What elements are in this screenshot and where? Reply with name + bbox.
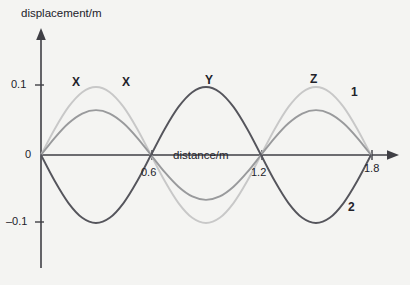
x-tick-label-0.6: 0.6 [141, 167, 156, 178]
standing-wave-figure: displacement/m distance/m 0.1 0 –0.1 0.6… [0, 0, 410, 285]
curve-annotation-x-1: X [122, 76, 130, 88]
x-tick-label-1.2: 1.2 [251, 167, 266, 178]
y-tick-label--0.1: –0.1 [6, 216, 27, 227]
plot-canvas [0, 0, 410, 285]
x-axis-title: distance/m [173, 150, 229, 162]
curve-annotation-y-2: Y [205, 74, 213, 86]
curve-annotation-x-0: X [72, 76, 80, 88]
y-axis-arrowhead [36, 28, 46, 40]
y-axis-title: displacement/m [21, 8, 102, 20]
curve-annotation-1-4: 1 [351, 86, 358, 98]
y-tick-label-0: 0 [25, 149, 31, 160]
x-axis-arrowhead [387, 150, 399, 160]
curve-annotation-z-3: Z [310, 73, 317, 85]
curve-annotation-2-5: 2 [348, 201, 355, 213]
y-tick-label-0.1: 0.1 [11, 79, 26, 90]
x-tick-label-1.8: 1.8 [364, 163, 379, 174]
axes-group [36, 28, 399, 268]
